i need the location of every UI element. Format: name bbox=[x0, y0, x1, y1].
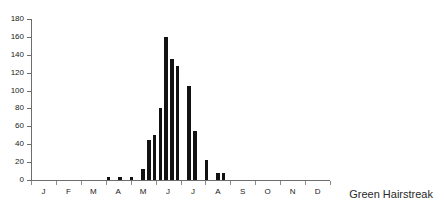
bar bbox=[118, 177, 122, 180]
x-tick-mark bbox=[131, 181, 132, 185]
x-tick-mark bbox=[156, 181, 157, 185]
x-tick-mark bbox=[230, 181, 231, 185]
y-tick-label: 40 bbox=[15, 138, 24, 149]
bar bbox=[147, 140, 151, 180]
y-tick-label: 140 bbox=[11, 49, 24, 60]
x-tick-label: S bbox=[233, 186, 253, 197]
y-tick-label: 0 bbox=[20, 174, 24, 185]
bar bbox=[176, 66, 180, 180]
x-tick-label: J bbox=[158, 186, 178, 197]
bar bbox=[164, 37, 168, 180]
x-tick-mark bbox=[31, 181, 32, 185]
x-tick-mark bbox=[330, 181, 331, 185]
x-tick-label: A bbox=[108, 186, 128, 197]
x-tick-mark bbox=[81, 181, 82, 185]
x-tick-mark bbox=[205, 181, 206, 185]
x-tick-label: N bbox=[283, 186, 303, 197]
x-tick-label: J bbox=[183, 186, 203, 197]
x-tick-mark bbox=[305, 181, 306, 185]
x-tick-mark bbox=[181, 181, 182, 185]
bar bbox=[141, 169, 145, 180]
y-tick-label: 20 bbox=[15, 156, 24, 167]
bar bbox=[187, 86, 191, 180]
x-tick-label: M bbox=[133, 186, 153, 197]
x-tick-mark bbox=[106, 181, 107, 185]
y-tick-label: 60 bbox=[15, 120, 24, 131]
bar bbox=[205, 160, 209, 180]
bar bbox=[222, 173, 226, 180]
bar bbox=[216, 173, 220, 180]
bar bbox=[153, 135, 157, 180]
x-tick-mark bbox=[255, 181, 256, 185]
x-tick-mark bbox=[280, 181, 281, 185]
y-tick-label: 120 bbox=[11, 67, 24, 78]
x-tick-label: J bbox=[33, 186, 53, 197]
bar bbox=[130, 177, 134, 180]
x-tick-mark bbox=[56, 181, 57, 185]
y-tick-label: 80 bbox=[15, 102, 24, 113]
y-tick-label: 160 bbox=[11, 31, 24, 42]
bar-series bbox=[31, 19, 330, 180]
series-label: Green Hairstreak bbox=[349, 187, 433, 201]
bar bbox=[159, 108, 163, 180]
y-tick-label: 100 bbox=[11, 85, 24, 96]
x-tick-label: O bbox=[258, 186, 278, 197]
bar bbox=[193, 131, 197, 180]
x-tick-label: A bbox=[208, 186, 228, 197]
y-tick-label: 180 bbox=[11, 13, 24, 24]
bar bbox=[170, 59, 174, 180]
x-tick-label: D bbox=[308, 186, 328, 197]
bar bbox=[107, 177, 111, 180]
x-tick-label: F bbox=[58, 186, 78, 197]
chart-container: 020406080100120140160180 JFMAMJJASOND Gr… bbox=[0, 0, 439, 209]
x-tick-label: M bbox=[83, 186, 103, 197]
